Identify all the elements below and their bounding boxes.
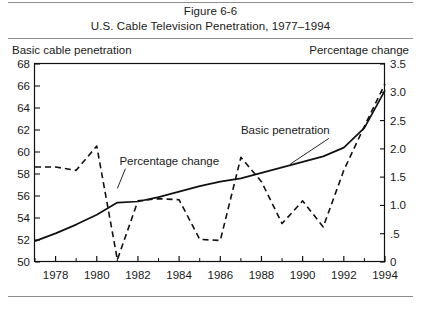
x-tick-label: 1980 bbox=[84, 269, 110, 281]
x-tick-label: 1994 bbox=[372, 269, 398, 281]
series-line-percentage-change bbox=[35, 84, 385, 260]
x-tick-label: 1986 bbox=[207, 269, 233, 281]
y-tick-label: 66 bbox=[17, 80, 30, 92]
y-tick-label: 54 bbox=[17, 212, 30, 224]
y-tick-label: 62 bbox=[17, 124, 30, 136]
x-axis: 197819801982198419861988199019921994 bbox=[35, 256, 398, 281]
y2-tick-label: 1.0 bbox=[390, 199, 406, 211]
chart-annotations: Percentage changeBasic penetration bbox=[117, 124, 329, 188]
y-tick-label: 68 bbox=[17, 58, 30, 70]
annotation-label: Basic penetration bbox=[241, 124, 330, 136]
y2-tick-label: 1.5 bbox=[390, 171, 406, 183]
divider-bottom bbox=[8, 296, 413, 297]
y-tick-label: 56 bbox=[17, 190, 30, 202]
data-series-group bbox=[35, 84, 385, 260]
y-tick-label: 50 bbox=[17, 256, 30, 268]
y2-tick-label: 3.5 bbox=[390, 58, 406, 70]
y-tick-label: 64 bbox=[17, 102, 30, 114]
x-tick-label: 1984 bbox=[166, 269, 192, 281]
y2-tick-label: .5 bbox=[390, 228, 400, 240]
y2-tick-label: 0 bbox=[390, 256, 396, 268]
chart-canvas: 50525456586062646668 0.51.01.52.02.53.03… bbox=[0, 0, 421, 309]
y2-tick-label: 2.0 bbox=[390, 143, 406, 155]
x-tick-label: 1978 bbox=[43, 269, 69, 281]
y-tick-label: 58 bbox=[17, 168, 30, 180]
x-tick-label: 1982 bbox=[125, 269, 151, 281]
x-tick-label: 1988 bbox=[249, 269, 275, 281]
x-tick-label: 1992 bbox=[331, 269, 357, 281]
y-tick-label: 52 bbox=[17, 234, 30, 246]
y2-tick-label: 3.0 bbox=[390, 86, 406, 98]
y-axis-left: 50525456586062646668 bbox=[17, 58, 40, 268]
x-tick-label: 1990 bbox=[290, 269, 316, 281]
annotation-leader bbox=[117, 169, 125, 189]
y2-tick-label: 2.5 bbox=[390, 115, 406, 127]
annotation-label: Percentage change bbox=[119, 155, 219, 167]
figure-container: Figure 6-6 U.S. Cable Television Penetra… bbox=[0, 0, 421, 309]
y-tick-label: 60 bbox=[17, 146, 30, 158]
